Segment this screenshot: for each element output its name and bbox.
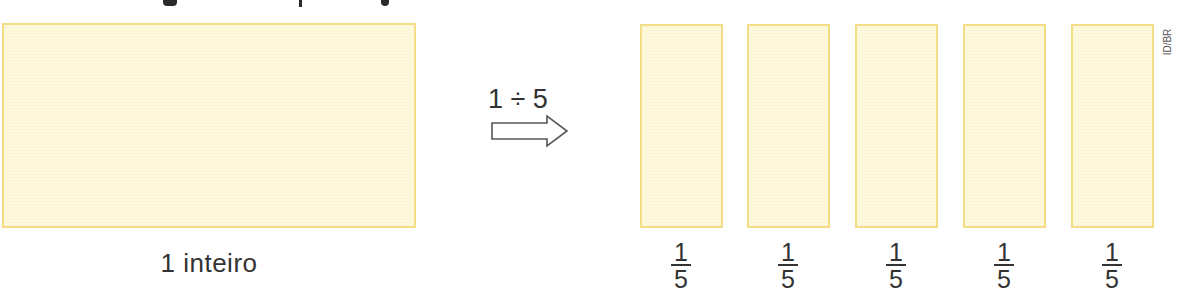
- fraction-label-5: 1 5: [1092, 240, 1132, 291]
- fraction-label-3: 1 5: [876, 240, 916, 291]
- fraction-label-2: 1 5: [768, 240, 808, 291]
- fifth-rectangle-5: [1071, 24, 1154, 228]
- whole-rectangle: [2, 23, 416, 228]
- fifth-rectangle-1: [640, 24, 723, 228]
- fifth-rectangle-3: [855, 24, 938, 228]
- denominator: 5: [661, 267, 701, 291]
- title-glyph-fragment: [381, 0, 389, 6]
- image-credit: ID/BR: [1162, 24, 1174, 60]
- numerator: 1: [661, 240, 701, 264]
- hollow-right-arrow-icon: [489, 113, 571, 149]
- fraction-label-4: 1 5: [984, 240, 1024, 291]
- denominator: 5: [768, 267, 808, 291]
- title-glyph-fragment: [299, 0, 302, 7]
- division-expression: 1 ÷ 5: [488, 84, 568, 115]
- numerator: 1: [768, 240, 808, 264]
- denominator: 5: [876, 267, 916, 291]
- fifth-rectangle-2: [747, 24, 830, 228]
- fraction-label-1: 1 5: [661, 240, 701, 291]
- denominator: 5: [984, 267, 1024, 291]
- denominator: 5: [1092, 267, 1132, 291]
- numerator: 1: [984, 240, 1024, 264]
- title-glyph-fragment: [163, 0, 177, 6]
- numerator: 1: [1092, 240, 1132, 264]
- numerator: 1: [876, 240, 916, 264]
- fifth-rectangle-4: [963, 24, 1046, 228]
- whole-label: 1 inteiro: [2, 248, 416, 279]
- cropped-title: [0, 0, 600, 8]
